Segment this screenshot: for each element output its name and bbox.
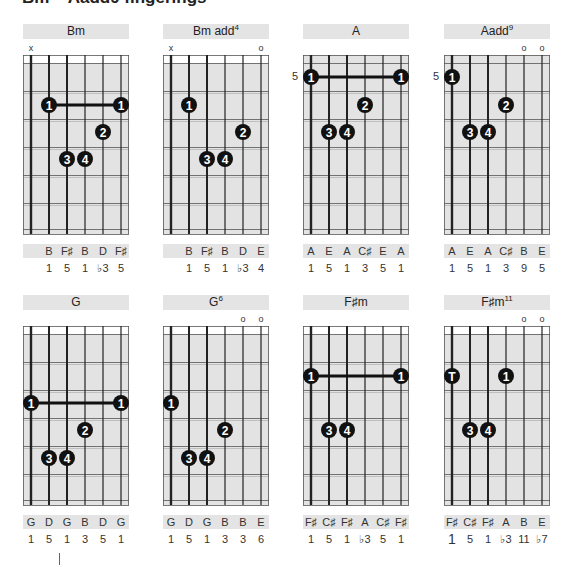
fretboard: 11234 bbox=[23, 326, 129, 506]
chord-diagram: G11234GDGBDG151351 bbox=[23, 295, 129, 545]
note-names-row: BF♯BDF♯ bbox=[23, 244, 129, 258]
finger-dot: 4 bbox=[77, 151, 93, 167]
chord-title: Bm bbox=[23, 24, 129, 39]
finger-dot: 3 bbox=[59, 151, 75, 167]
finger-dot: T bbox=[444, 368, 460, 384]
note-name: E bbox=[257, 244, 264, 258]
finger-label: T bbox=[448, 370, 456, 384]
intervals-row: 151♭351 bbox=[303, 532, 409, 548]
open-string-mark: o bbox=[539, 314, 544, 324]
chord-superscript: 11 bbox=[505, 294, 513, 303]
chord-superscript: 4 bbox=[234, 23, 238, 32]
note-name: G bbox=[167, 515, 176, 529]
note-name: B bbox=[45, 244, 52, 258]
chord-name: Bm add bbox=[193, 24, 234, 38]
note-name: B bbox=[221, 244, 228, 258]
interval-label: 1 bbox=[168, 532, 174, 546]
finger-dot: 3 bbox=[462, 124, 478, 140]
finger-label: 4 bbox=[64, 452, 71, 466]
finger-label: 1 bbox=[28, 397, 35, 411]
note-name: B bbox=[81, 244, 88, 258]
finger-label: 1 bbox=[449, 71, 456, 85]
interval-label: 5 bbox=[539, 261, 545, 275]
interval-label: ♭7 bbox=[536, 532, 547, 546]
finger-dot: 1 bbox=[113, 395, 129, 411]
interval-label: 5 bbox=[204, 261, 210, 275]
fret-position-label: 5 bbox=[292, 70, 298, 82]
finger-label: 4 bbox=[485, 126, 492, 140]
intervals-row: 151351 bbox=[303, 261, 409, 277]
note-name: F♯ bbox=[446, 515, 458, 529]
interval-label: 5 bbox=[467, 532, 473, 546]
interval-label: ♭3 bbox=[500, 532, 511, 546]
open-string-mark: o bbox=[240, 314, 245, 324]
note-name: E bbox=[257, 515, 264, 529]
open-string-mark: o bbox=[258, 43, 263, 53]
chord-title: G6 bbox=[163, 295, 269, 310]
fretboard: 1134 bbox=[303, 326, 409, 506]
note-name: F♯ bbox=[305, 515, 317, 529]
finger-dot: 3 bbox=[321, 124, 337, 140]
interval-label: 3 bbox=[82, 532, 88, 546]
finger-dot: 4 bbox=[480, 422, 496, 438]
interval-label: 3 bbox=[240, 532, 246, 546]
finger-dot: 2 bbox=[217, 422, 233, 438]
chord-superscript: 6 bbox=[218, 294, 222, 303]
interval-label: 6 bbox=[258, 532, 264, 546]
finger-dot: 2 bbox=[95, 124, 111, 140]
interval-label: 1 bbox=[398, 261, 404, 275]
chord-diagram: Aadd9oo51234AEAC♯BE151395 bbox=[444, 24, 550, 274]
interval-label: 1 bbox=[46, 261, 52, 275]
note-name: A bbox=[448, 244, 455, 258]
finger-label: 3 bbox=[467, 126, 474, 140]
chord-title: F♯m11 bbox=[444, 295, 550, 310]
finger-dot: 1 bbox=[113, 97, 129, 113]
finger-label: 4 bbox=[485, 424, 492, 438]
finger-dot: 1 bbox=[181, 97, 197, 113]
intervals-row: 151♭35 bbox=[23, 261, 129, 277]
note-name: E bbox=[379, 244, 386, 258]
interval-label: 1 bbox=[204, 532, 210, 546]
note-names-row: AEAC♯BE bbox=[444, 244, 550, 258]
note-name: D bbox=[45, 515, 53, 529]
finger-label: 2 bbox=[222, 424, 229, 438]
interval-label: ♭3 bbox=[237, 261, 248, 275]
interval-label: 1 bbox=[308, 261, 314, 275]
note-name: B bbox=[185, 244, 192, 258]
fretboard: T134 bbox=[444, 326, 550, 506]
chord-superscript: 9 bbox=[509, 23, 513, 32]
note-name: G bbox=[117, 515, 126, 529]
chord-title: A bbox=[303, 24, 409, 39]
muted-string-mark: x bbox=[169, 43, 174, 53]
note-names-row: BF♯BDE bbox=[163, 244, 269, 258]
open-string-mark: o bbox=[539, 43, 544, 53]
finger-label: 1 bbox=[186, 99, 193, 113]
fretboard: 1234 bbox=[444, 55, 550, 235]
note-name: C♯ bbox=[322, 515, 335, 529]
finger-label: 2 bbox=[100, 126, 107, 140]
note-names-row: AEAC♯EA bbox=[303, 244, 409, 258]
chord-name: Bm bbox=[67, 24, 85, 38]
intervals-row: 151351 bbox=[23, 532, 129, 548]
fretboard: 11234 bbox=[23, 55, 129, 235]
finger-label: 1 bbox=[398, 71, 405, 85]
note-name: F♯ bbox=[395, 515, 407, 529]
interval-label: ♭3 bbox=[359, 532, 370, 546]
note-name: E bbox=[325, 244, 332, 258]
interval-label: 1 bbox=[308, 532, 314, 546]
finger-dot: 4 bbox=[217, 151, 233, 167]
interval-label: 1 bbox=[485, 261, 491, 275]
note-names-row: F♯C♯F♯AC♯F♯ bbox=[303, 515, 409, 529]
open-string-mark: o bbox=[521, 43, 526, 53]
note-names-row: GDGBDG bbox=[23, 515, 129, 529]
finger-label: 3 bbox=[64, 153, 71, 167]
chord-diagram: F♯m11ooT134F♯C♯F♯ABE151♭311♭7 bbox=[444, 295, 550, 545]
finger-label: 3 bbox=[326, 126, 333, 140]
finger-label: 3 bbox=[326, 424, 333, 438]
interval-label: 5 bbox=[46, 532, 52, 546]
interval-label: 11 bbox=[518, 532, 529, 546]
open-string-mark: o bbox=[521, 314, 526, 324]
finger-label: 2 bbox=[82, 424, 89, 438]
interval-label: 9 bbox=[521, 261, 527, 275]
note-name: A bbox=[484, 244, 491, 258]
